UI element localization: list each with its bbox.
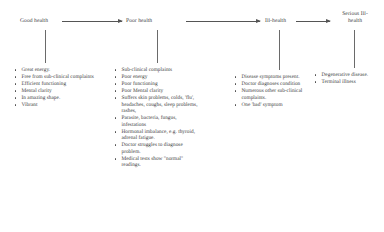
list-item: Vibrant	[14, 102, 98, 108]
arrowhead-icon	[326, 19, 331, 23]
list-item: Doctor diagnoses condition	[234, 81, 310, 87]
list-item-text: Doctor struggles to diagnose problem.	[122, 142, 183, 154]
list-item: Parasite, bacteria, fungus, infestations	[114, 115, 202, 128]
list-item: In amazing shape.	[14, 95, 98, 101]
list-item-text: Vibrant	[22, 102, 38, 108]
list-item-text: Degenerative disease.	[322, 72, 369, 78]
list-item-text: Poor energy	[122, 74, 148, 80]
bullet-dot-icon	[235, 104, 237, 106]
list-item: Degenerative disease.	[314, 72, 376, 78]
bullet-dot-icon	[115, 90, 117, 92]
list-item: Numerous other sub-clinical complaints.	[234, 88, 310, 101]
bullet-dot-icon	[235, 90, 237, 92]
bullet-dot-icon	[235, 76, 237, 78]
bullet-dot-icon	[315, 74, 317, 76]
list-item-text: Efficient functioning	[22, 81, 67, 87]
bullet-dot-icon	[15, 83, 17, 85]
list-item-text: Terminal illness	[322, 79, 356, 85]
bullet-dot-icon	[15, 104, 17, 106]
connector-good-health	[45, 30, 46, 63]
list-item-text: Disease symptoms present.	[242, 74, 300, 80]
stage-label-poor-health: Poor health	[126, 18, 152, 25]
list-item: Efficient functioning	[14, 81, 98, 87]
connector-ill-health	[279, 30, 280, 70]
list-item-text: Numerous other sub-clinical complaints.	[242, 88, 303, 100]
bullet-list-ill-health: Disease symptoms present. Doctor diagnos…	[234, 74, 310, 109]
arrow-poor-to-ill	[186, 21, 260, 22]
list-item: Medical tests show "normal" readings.	[114, 156, 202, 169]
stage-label-serious-ill-health: Serious Ill-health	[336, 11, 374, 24]
list-item-text: Suffers skin problems, colds, 'flu', hea…	[122, 95, 198, 114]
list-item-text: Parasite, bacteria, fungus, infestations	[122, 115, 177, 127]
list-item: Sub-clinical complaints	[114, 67, 202, 73]
list-item-text: In amazing shape.	[22, 95, 61, 101]
bullet-dot-icon	[115, 158, 117, 160]
list-item-text: Sub-clinical complaints	[122, 67, 173, 73]
bullet-list-good-health: Great energy. Free from sub-clinical com…	[14, 67, 98, 109]
bullet-dot-icon	[115, 144, 117, 146]
list-item: Great energy.	[14, 67, 98, 73]
list-item: Hormonal imbalance, e.g. thyroid, adrena…	[114, 129, 202, 142]
bullet-dot-icon	[15, 97, 17, 99]
bullet-dot-icon	[235, 83, 237, 85]
bullet-dot-icon	[15, 90, 17, 92]
connector-serious-ill-health	[354, 30, 355, 68]
bullet-dot-icon	[115, 117, 117, 119]
bullet-dot-icon	[15, 76, 17, 78]
arrowhead-icon	[118, 19, 123, 23]
list-item: Terminal illness	[314, 79, 376, 85]
list-item-text: Mental clarity	[22, 88, 52, 94]
list-item-text: One 'bad' symptom	[242, 102, 283, 108]
diagram-canvas: Good health Poor health Ill-health Serio…	[0, 0, 384, 232]
list-item-text: Free from sub-clinical complaints	[22, 74, 94, 80]
list-item-text: Hormonal imbalance, e.g. thyroid, adrena…	[122, 129, 195, 141]
bullet-dot-icon	[115, 131, 117, 133]
list-item: Doctor struggles to diagnose problem.	[114, 142, 202, 155]
list-item-text: Great energy.	[22, 67, 51, 73]
arrow-good-to-poor	[62, 21, 122, 22]
connector-poor-health	[157, 30, 158, 63]
arrow-ill-to-serious	[296, 21, 330, 22]
stage-label-good-health: Good health	[20, 18, 48, 25]
list-item: Poor functioning	[114, 81, 202, 87]
list-item: Poor energy	[114, 74, 202, 80]
list-item-text: Poor Mental clarity	[122, 88, 164, 94]
list-item: Poor Mental clarity	[114, 88, 202, 94]
list-item: Free from sub-clinical complaints	[14, 74, 98, 80]
bullet-dot-icon	[115, 97, 117, 99]
bullet-list-poor-health: Sub-clinical complaints Poor energy Poor…	[114, 67, 202, 169]
list-item-text: Poor functioning	[122, 81, 158, 87]
list-item: Mental clarity	[14, 88, 98, 94]
list-item-text: Medical tests show "normal" readings.	[122, 156, 184, 168]
bullet-dot-icon	[115, 76, 117, 78]
list-item: One 'bad' symptom	[234, 102, 310, 108]
arrowhead-icon	[256, 19, 261, 23]
bullet-dot-icon	[315, 81, 317, 83]
stage-label-ill-health: Ill-health	[265, 18, 286, 25]
bullet-list-serious-ill-health: Degenerative disease. Terminal illness	[314, 72, 376, 86]
list-item-text: Doctor diagnoses condition	[242, 81, 301, 87]
bullet-dot-icon	[115, 83, 117, 85]
bullet-dot-icon	[115, 69, 117, 71]
list-item: Disease symptoms present.	[234, 74, 310, 80]
bullet-dot-icon	[15, 69, 17, 71]
list-item: Suffers skin problems, colds, 'flu', hea…	[114, 95, 202, 114]
